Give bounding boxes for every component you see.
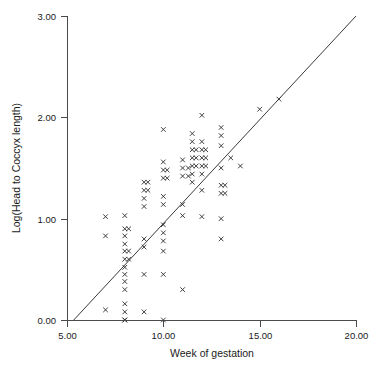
data-point-marker — [161, 160, 166, 165]
data-point-marker — [219, 133, 224, 138]
data-point-marker — [203, 156, 208, 161]
y-axis-title: Log(Head to Coccyx length) — [10, 103, 22, 233]
data-point-marker — [142, 310, 147, 315]
data-point-marker — [219, 143, 224, 148]
data-point-marker — [219, 166, 224, 171]
data-point-marker — [219, 237, 224, 242]
x-tick-label: 15.00 — [249, 330, 273, 341]
data-point-marker — [200, 214, 205, 219]
data-point-marker — [200, 188, 205, 193]
data-point-marker — [219, 216, 224, 221]
data-point-marker — [146, 188, 151, 193]
data-point-marker — [161, 272, 166, 277]
data-point-marker — [200, 113, 205, 118]
x-tick-label: 10.00 — [152, 330, 176, 341]
data-point-marker — [223, 191, 228, 196]
data-point-marker — [123, 287, 128, 292]
data-point-marker — [161, 231, 166, 236]
data-point-marker — [161, 239, 166, 244]
x-axis-ticks: 5.0010.0015.0020.00 — [58, 321, 368, 341]
data-point-marker — [190, 139, 195, 144]
data-point-marker — [203, 147, 208, 152]
data-point-marker — [165, 168, 170, 173]
data-point-marker — [123, 272, 128, 277]
data-point-marker — [165, 176, 170, 181]
data-point-marker — [200, 172, 205, 177]
x-tick-label: 20.00 — [345, 330, 369, 341]
data-point-marker — [277, 97, 282, 102]
data-point-marker — [161, 194, 166, 199]
y-tick-label: 3.00 — [38, 11, 57, 22]
data-point-marker — [161, 127, 166, 132]
data-point-marker — [103, 214, 108, 219]
data-point-marker — [194, 147, 199, 152]
data-point-marker — [257, 107, 262, 112]
data-point-marker — [180, 174, 185, 179]
data-point-marker — [180, 213, 185, 218]
data-point-marker — [123, 213, 128, 218]
x-tick-label: 5.00 — [58, 330, 77, 341]
x-axis-title: Week of gestation — [170, 347, 254, 359]
data-point-marker — [203, 164, 208, 169]
regression-line-segment — [74, 16, 356, 320]
data-point-marker — [194, 164, 199, 169]
data-point-marker — [123, 310, 128, 315]
data-point-marker — [142, 196, 147, 201]
data-point-marker — [180, 158, 185, 163]
data-point-marker — [146, 180, 151, 185]
data-point-marker — [161, 202, 166, 207]
data-point-marker — [161, 249, 166, 254]
data-point-marker — [180, 166, 185, 171]
data-point-marker — [142, 237, 147, 242]
data-point-marker — [103, 234, 108, 239]
data-point-marker — [123, 279, 128, 284]
data-point-marker — [190, 131, 195, 136]
data-point-marker — [142, 204, 147, 209]
y-axis-ticks: 0.001.002.003.00 — [38, 11, 68, 326]
data-point-marker — [123, 234, 128, 239]
data-point-marker — [180, 287, 185, 292]
y-tick-label: 1.00 — [38, 214, 57, 225]
data-point-marker — [103, 308, 108, 313]
data-point-marker — [238, 164, 243, 169]
data-point-marker — [200, 139, 205, 144]
data-points — [103, 97, 281, 323]
data-point-marker — [123, 242, 128, 247]
data-point-marker — [194, 156, 199, 161]
data-point-marker — [126, 249, 131, 254]
plot-area: 5.0010.0015.0020.00 0.001.002.003.00 Wee… — [0, 0, 372, 367]
data-point-marker — [123, 301, 128, 306]
data-point-marker — [190, 180, 195, 185]
regression-line — [74, 16, 356, 320]
y-tick-label: 0.00 — [38, 315, 57, 326]
data-point-marker — [142, 272, 147, 277]
y-tick-label: 2.00 — [38, 112, 57, 123]
scatter-chart: 5.0010.0015.0020.00 0.001.002.003.00 Wee… — [0, 0, 372, 367]
data-point-marker — [219, 125, 224, 130]
data-point-marker — [142, 245, 147, 250]
data-point-marker — [126, 227, 131, 232]
data-point-marker — [223, 183, 228, 188]
data-point-marker — [228, 156, 233, 161]
